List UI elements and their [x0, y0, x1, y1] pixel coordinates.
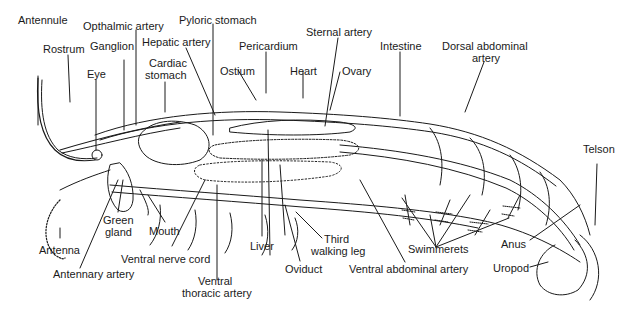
- label-antennary-artery: Antennary artery: [53, 268, 134, 280]
- label-opthalmic-artery: Opthalmic artery: [83, 20, 164, 32]
- label-pyloric-stomach: Pyloric stomach: [179, 14, 257, 26]
- label-rostrum: Rostrum: [43, 43, 85, 55]
- label-hepatic-artery: Hepatic artery: [142, 36, 210, 48]
- label-ventral-nerve-cord: Ventral nerve cord: [121, 253, 210, 265]
- label-uropod: Uropod: [493, 262, 529, 274]
- label-ventral-thoracic-artery-line2: thoracic artery: [182, 287, 252, 299]
- label-cardiac-stomach-line1: Cardiac: [149, 57, 187, 69]
- label-swimmerets: Swimmerets: [408, 243, 469, 255]
- label-ostium: Ostium: [220, 65, 255, 77]
- label-ventral-abdominal-artery: Ventral abdominal artery: [349, 263, 468, 275]
- label-antennule: Antennule: [18, 14, 68, 26]
- label-heart: Heart: [290, 65, 317, 77]
- label-green-gland-line1: Green: [103, 214, 134, 226]
- label-green-gland-line2: gland: [105, 226, 132, 238]
- label-pericardium: Pericardium: [239, 40, 298, 52]
- label-third-walking-leg-line1: Third: [324, 233, 349, 245]
- crayfish-anatomy-diagram: Antennule Rostrum Opthalmic artery Gangl…: [0, 0, 631, 312]
- label-oviduct: Oviduct: [285, 263, 322, 275]
- label-anus: Anus: [501, 238, 526, 250]
- label-ganglion: Ganglion: [90, 40, 134, 52]
- label-third-walking-leg-line2: walking leg: [311, 245, 365, 257]
- label-intestine: Intestine: [380, 40, 422, 52]
- label-cardiac-stomach-line2: stomach: [145, 69, 187, 81]
- label-dorsal-abdominal-artery-line2: artery: [472, 52, 500, 64]
- label-ovary: Ovary: [342, 65, 371, 77]
- label-ventral-thoracic-artery-line1: Ventral: [198, 275, 232, 287]
- label-telson: Telson: [583, 143, 615, 155]
- label-antenna: Antenna: [39, 244, 80, 256]
- label-mouth: Mouth: [149, 225, 180, 237]
- label-dorsal-abdominal-artery-line1: Dorsal abdominal: [442, 40, 528, 52]
- label-sternal-artery: Sternal artery: [306, 26, 372, 38]
- label-liver: Liver: [250, 240, 274, 252]
- label-eye: Eye: [87, 68, 106, 80]
